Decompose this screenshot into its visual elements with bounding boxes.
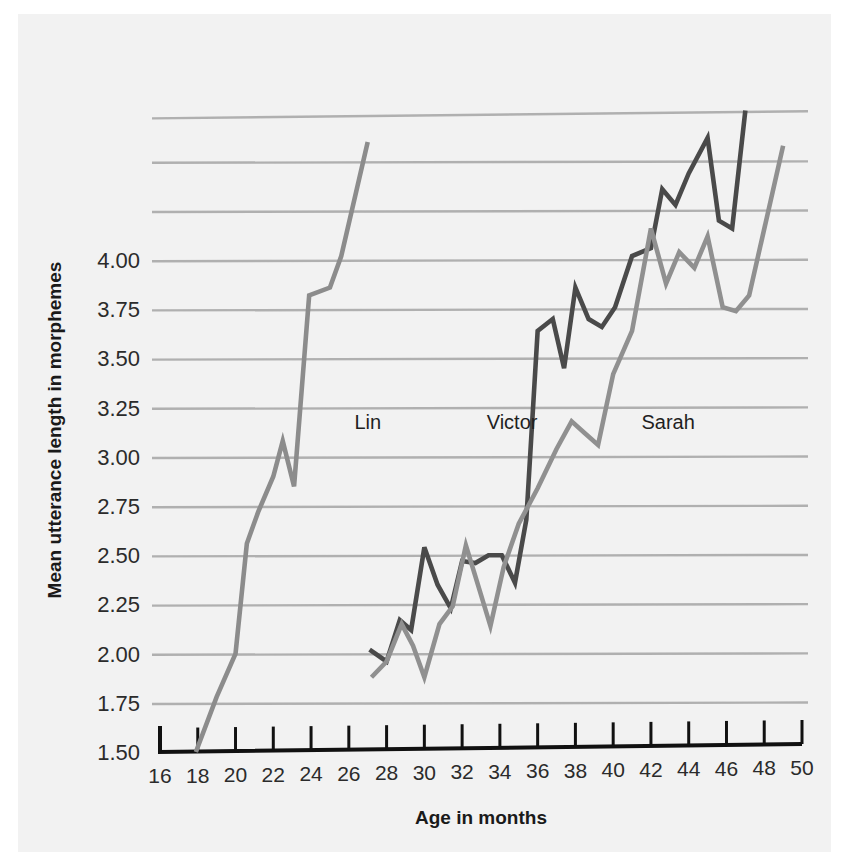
gridline [152, 506, 808, 507]
x-tick-label: 30 [413, 761, 436, 784]
y-tick-label: 1.50 [97, 740, 140, 765]
gridline [152, 457, 808, 458]
y-tick-label: 3.25 [97, 396, 140, 421]
y-tick-label: 2.25 [97, 592, 140, 617]
y-tick-label: 3.75 [97, 297, 140, 322]
gridline [152, 555, 808, 556]
x-tick-label: 18 [186, 764, 209, 787]
y-axis-title: Mean utterance length in morphemes [44, 262, 65, 599]
x-tick-label: 40 [601, 758, 624, 781]
series-label-victor: Victor [487, 411, 538, 433]
figure-page: 1.501.752.002.252.502.753.003.253.503.75… [0, 0, 843, 866]
x-tick-label: 36 [526, 759, 549, 782]
series-line-sarah [371, 146, 783, 677]
x-tick-label: 50 [790, 756, 813, 779]
gridline [152, 111, 808, 118]
series-labels-group: LinVictorSarah [354, 411, 694, 433]
gridline [152, 604, 808, 605]
x-tick-label: 20 [224, 763, 247, 786]
gridline [152, 653, 808, 654]
x-tick-label: 24 [299, 762, 323, 785]
axes-group [160, 726, 802, 752]
series-line-victor [370, 110, 746, 661]
x-tick-label: 44 [677, 757, 701, 780]
y-tick-label: 4.00 [97, 248, 140, 273]
gridline [152, 407, 808, 408]
x-tick-label: 42 [639, 758, 662, 781]
axis-spine [160, 726, 802, 752]
y-tick-label: 2.00 [97, 642, 140, 667]
x-tick-label: 22 [262, 763, 285, 786]
y-tick-label: 2.75 [97, 494, 140, 519]
chart-canvas: 1.501.752.002.252.502.753.003.253.503.75… [0, 0, 843, 866]
y-tick-label: 2.50 [97, 543, 140, 568]
x-tick-label: 26 [337, 762, 360, 785]
x-tick-label: 28 [375, 761, 398, 784]
gridlines-group [152, 111, 808, 704]
series-label-lin: Lin [354, 411, 381, 433]
x-tick-labels-group: 161820222426283032343638404244464850 [148, 756, 813, 787]
gridline [152, 211, 808, 212]
x-tick-label: 16 [148, 764, 171, 787]
gridline [152, 309, 808, 310]
y-tick-label: 3.00 [97, 445, 140, 470]
gridline [152, 703, 808, 704]
y-tick-label: 1.75 [97, 691, 140, 716]
x-tick-label: 46 [715, 757, 738, 780]
series-label-sarah: Sarah [642, 411, 695, 433]
series-line-lin [196, 142, 368, 752]
x-tick-label: 48 [753, 756, 776, 779]
x-tick-label: 38 [564, 759, 587, 782]
y-tick-label: 3.50 [97, 346, 140, 371]
y-tick-labels-group: 1.501.752.002.252.502.753.003.253.503.75… [97, 248, 140, 765]
x-tick-label: 32 [450, 760, 473, 783]
gridline [152, 358, 808, 359]
x-tick-label: 34 [488, 760, 512, 783]
line-chart-figure: 1.501.752.002.252.502.753.003.253.503.75… [0, 0, 843, 866]
x-axis-title: Age in months [415, 807, 547, 828]
gridline [152, 260, 808, 261]
